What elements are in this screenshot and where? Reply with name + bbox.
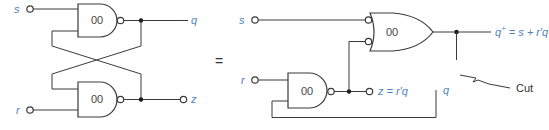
label-r-left: r — [16, 104, 21, 116]
input-terminal-s-right — [252, 17, 258, 23]
right-circuit: s 00 q+ = s + r′q r 00 z = r′q q Cut — [239, 13, 549, 118]
label-q-plus: q+ = s + r′q — [495, 24, 549, 38]
output-terminal-z-right — [366, 88, 372, 94]
output-terminal-z — [180, 96, 186, 102]
label-q-feedback: q — [443, 84, 450, 96]
label-s-left: s — [14, 3, 20, 15]
input-terminal-s — [27, 6, 33, 12]
left-circuit: s 00 q 00 z r — [14, 3, 198, 117]
inversion-bubble-bottom — [117, 96, 123, 102]
inversion-bubble-nand-right — [328, 88, 334, 94]
input-terminal-r — [27, 107, 33, 113]
junction-dot-bottom — [139, 97, 143, 101]
sr-latch-diagram: s 00 q 00 z r = s 00 — [0, 0, 549, 130]
gate-label-top: 00 — [91, 14, 103, 26]
label-r-right: r — [241, 74, 246, 86]
inversion-bubble-or-input-2 — [365, 38, 371, 44]
inversion-bubble-top — [117, 17, 123, 23]
equals-sign: = — [215, 53, 223, 69]
label-s-right: s — [239, 14, 245, 26]
gate-label-nand-right: 00 — [301, 85, 313, 97]
gate-label-bottom: 00 — [91, 93, 103, 105]
wire-nand-to-or — [349, 42, 365, 92]
label-z-left: z — [190, 93, 197, 105]
label-q-left: q — [191, 14, 198, 26]
cut-zigzag-icon — [460, 75, 510, 88]
label-z-right: z = r′q — [377, 85, 409, 97]
inversion-bubble-or-input-1 — [365, 17, 371, 23]
label-cut: Cut — [516, 82, 533, 94]
input-terminal-r-right — [252, 77, 258, 83]
or-gate-inverted-inputs — [370, 13, 433, 51]
gate-label-or: 00 — [386, 26, 398, 38]
